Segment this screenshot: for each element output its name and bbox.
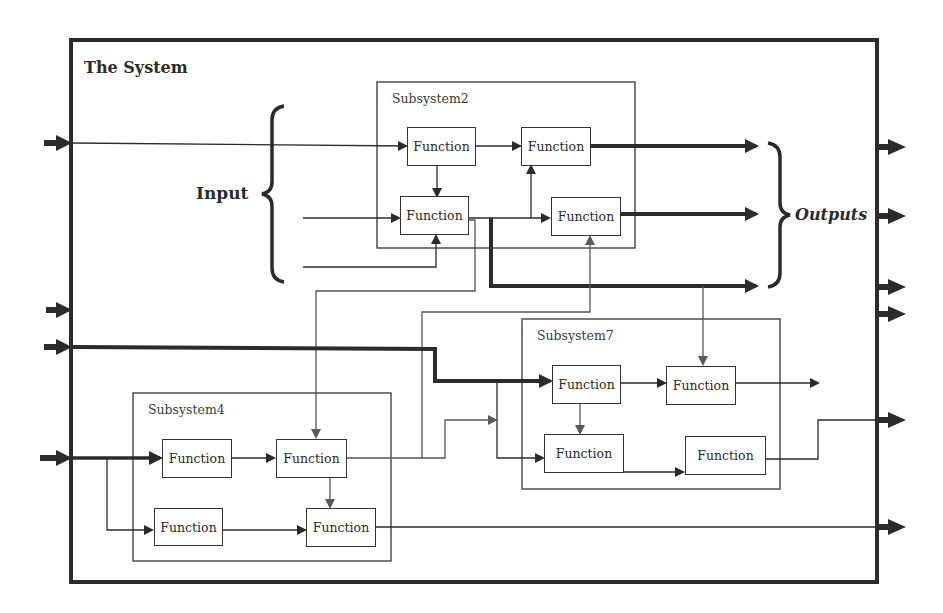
system-title: The System bbox=[84, 58, 188, 77]
subsystem4-function-2: Function bbox=[276, 439, 347, 478]
external-input-arrows bbox=[40, 135, 72, 466]
subsystem2-label: Subsystem2 bbox=[392, 91, 469, 106]
subsystem2-function-1: Function bbox=[407, 127, 476, 166]
subsystem2-function-2: Function bbox=[521, 127, 591, 166]
subsystem7-function-1: Function bbox=[552, 365, 621, 404]
system-diagram: The System Input Outputs Subsystem2 Func… bbox=[0, 0, 943, 613]
diagram-canvas bbox=[0, 0, 943, 613]
subsystem2-function-4: Function bbox=[551, 197, 621, 236]
subsystem4-function-4: Function bbox=[306, 508, 376, 547]
input-label: Input bbox=[196, 183, 248, 203]
subsystem4-label: Subsystem4 bbox=[148, 402, 225, 417]
outputs-label: Outputs bbox=[795, 205, 867, 224]
subsystem4-function-1: Function bbox=[162, 439, 232, 478]
subsystem7-label: Subsystem7 bbox=[537, 328, 614, 343]
subsystem7-function-2: Function bbox=[666, 366, 736, 405]
subsystem7-function-3: Function bbox=[544, 434, 624, 473]
subsystem2-function-3: Function bbox=[400, 196, 469, 235]
outputs-brace bbox=[768, 143, 790, 287]
system-boundary bbox=[71, 40, 877, 582]
subsystem7-function-4: Function bbox=[685, 436, 766, 475]
input-brace bbox=[262, 106, 284, 282]
subsystem4-function-3: Function bbox=[154, 508, 223, 546]
external-output-arrows bbox=[879, 139, 906, 535]
